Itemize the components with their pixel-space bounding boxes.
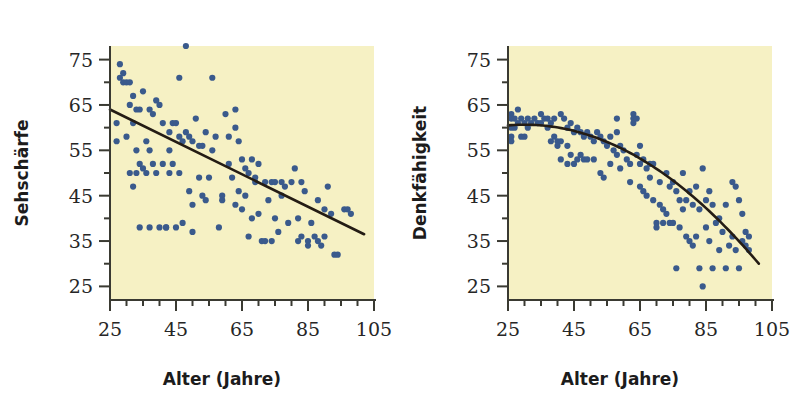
- data-point: [120, 70, 126, 76]
- data-point: [568, 152, 574, 158]
- x-tick-labels-left: 25456585105: [98, 318, 392, 340]
- data-point: [710, 265, 716, 271]
- data-point: [551, 115, 557, 121]
- data-point: [627, 179, 633, 185]
- data-point: [634, 115, 640, 121]
- y-tick-label: 65: [467, 94, 491, 116]
- data-point: [663, 211, 669, 217]
- data-point: [127, 79, 133, 85]
- data-point: [282, 184, 288, 190]
- data-point: [607, 134, 613, 140]
- plot-area-background-right: [508, 46, 772, 300]
- data-point: [114, 120, 120, 126]
- data-point: [746, 233, 752, 239]
- x-tick-label: 65: [230, 318, 254, 340]
- data-point: [232, 202, 238, 208]
- data-point: [127, 102, 133, 108]
- y-tick-label: 65: [69, 94, 93, 116]
- data-point: [272, 215, 278, 221]
- panel-denkfaehigkeit: 756555453525 25456585105 Denkfähigkeit A…: [398, 0, 796, 419]
- data-point: [166, 129, 172, 135]
- data-point: [693, 184, 699, 190]
- data-point: [617, 165, 623, 171]
- data-point: [140, 88, 146, 94]
- x-axis-label-right: Alter (Jahre): [561, 369, 679, 389]
- data-point: [133, 147, 139, 153]
- y-tick-label: 25: [467, 275, 491, 297]
- data-point: [166, 147, 172, 153]
- data-point: [137, 106, 143, 112]
- data-point: [318, 242, 324, 248]
- y-tick-label: 25: [69, 275, 93, 297]
- data-point: [673, 188, 679, 194]
- x-tick-label: 45: [562, 318, 586, 340]
- data-point: [156, 102, 162, 108]
- data-point: [173, 224, 179, 230]
- data-point: [693, 233, 699, 239]
- data-point: [739, 211, 745, 217]
- y-tick-label: 75: [69, 49, 93, 71]
- data-point: [710, 202, 716, 208]
- data-point: [703, 197, 709, 203]
- data-point: [601, 174, 607, 180]
- data-point: [706, 188, 712, 194]
- x-tick-label: 25: [98, 318, 122, 340]
- data-point: [673, 265, 679, 271]
- data-point: [269, 238, 275, 244]
- data-point: [222, 111, 228, 117]
- data-point: [677, 224, 683, 230]
- chart-sehschaerfe: 756555453525 25456585105 Sehschärfe Alte…: [0, 0, 398, 419]
- data-point: [255, 211, 261, 217]
- data-point: [348, 211, 354, 217]
- data-point: [130, 93, 136, 99]
- x-tick-label: 65: [628, 318, 652, 340]
- data-point: [325, 184, 331, 190]
- data-point: [670, 220, 676, 226]
- data-point: [196, 174, 202, 180]
- data-point: [150, 161, 156, 167]
- data-point: [653, 224, 659, 230]
- data-point: [564, 143, 570, 149]
- data-point: [160, 120, 166, 126]
- data-point: [236, 188, 242, 194]
- data-point: [298, 233, 304, 239]
- data-point: [147, 224, 153, 230]
- data-point: [236, 138, 242, 144]
- data-point: [584, 156, 590, 162]
- panel-sehschaerfe: 756555453525 25456585105 Sehschärfe Alte…: [0, 0, 398, 419]
- data-point: [723, 265, 729, 271]
- y-tick-label: 45: [467, 185, 491, 207]
- data-point: [716, 247, 722, 253]
- data-point: [130, 184, 136, 190]
- data-point: [242, 193, 248, 199]
- data-point: [723, 202, 729, 208]
- x-tick-labels-right: 25456585105: [496, 318, 790, 340]
- data-point: [123, 134, 129, 140]
- data-point: [677, 197, 683, 203]
- data-point: [156, 224, 162, 230]
- data-point: [183, 43, 189, 49]
- data-point: [315, 197, 321, 203]
- data-point: [153, 170, 159, 176]
- y-tick-labels-left: 756555453525: [69, 49, 93, 298]
- data-point: [719, 229, 725, 235]
- data-point: [219, 197, 225, 203]
- data-point: [508, 138, 514, 144]
- data-point: [239, 206, 245, 212]
- data-point: [203, 129, 209, 135]
- data-point: [637, 143, 643, 149]
- data-point: [166, 170, 172, 176]
- y-tick-label: 55: [467, 139, 491, 161]
- data-point: [143, 170, 149, 176]
- data-point: [657, 179, 663, 185]
- y-tick-label: 75: [467, 49, 491, 71]
- data-point: [335, 252, 341, 258]
- y-tick-label: 35: [467, 230, 491, 252]
- y-tick-label: 45: [69, 185, 93, 207]
- data-point: [292, 165, 298, 171]
- x-tick-label: 105: [754, 318, 790, 340]
- data-point: [644, 193, 650, 199]
- data-point: [700, 283, 706, 289]
- y-tick-label: 35: [69, 230, 93, 252]
- data-point: [199, 143, 205, 149]
